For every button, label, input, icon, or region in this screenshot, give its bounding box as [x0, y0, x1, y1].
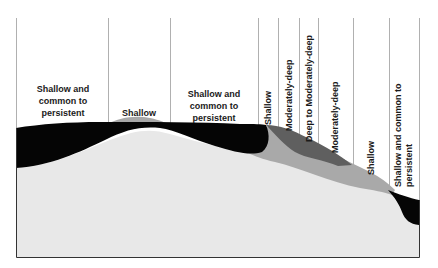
zone-label-4: Shallow	[263, 25, 274, 125]
zone-label-1: Shallow and common to persistent	[20, 83, 106, 119]
zone-label-6: Deep to Moderately-deep	[304, 12, 315, 142]
zone-label-8: Shallow	[366, 75, 377, 175]
zone-label-7: Moderately-deep	[330, 33, 341, 153]
zone-label-3: Shallow and common to persistent	[172, 88, 256, 124]
zone-label-5: Moderately-deep	[284, 11, 295, 131]
zone-label-2: Shallow	[110, 107, 168, 119]
zone-label-9: Shallow and common to persistent	[393, 17, 415, 187]
